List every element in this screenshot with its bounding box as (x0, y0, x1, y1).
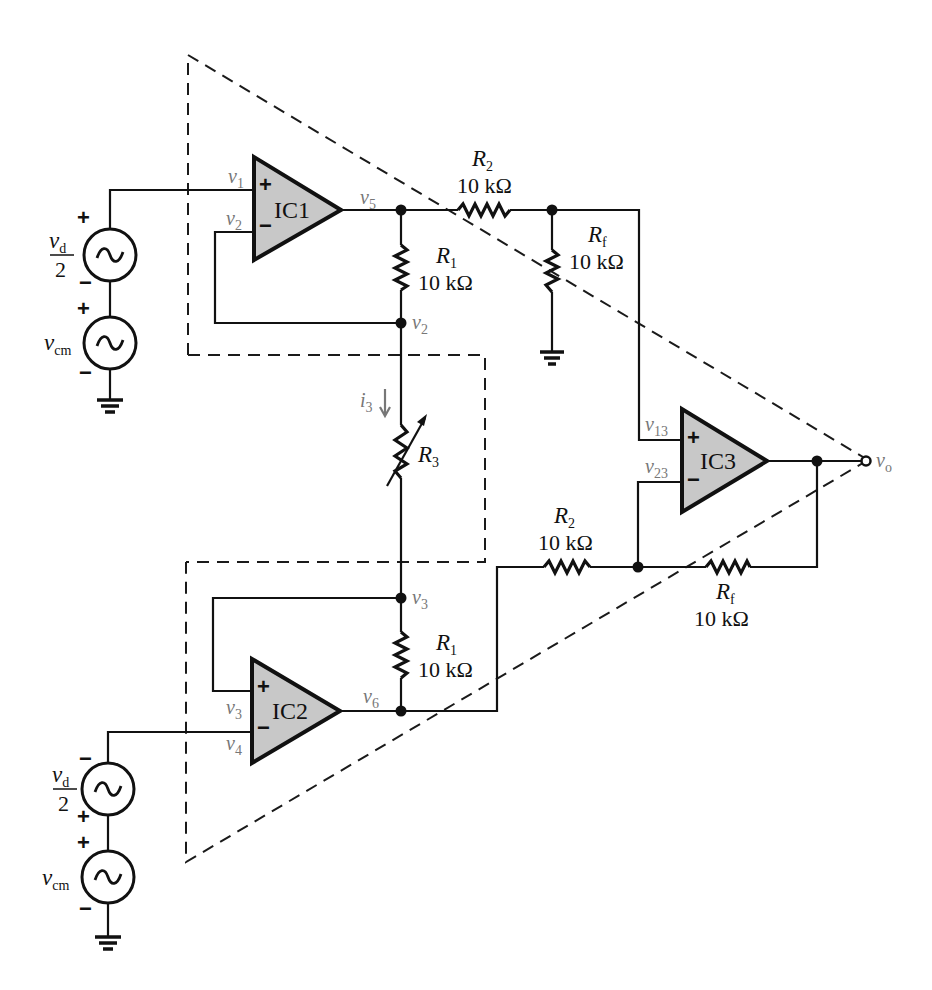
rf-top-value: 10 kΩ (569, 249, 624, 274)
ic3-plus-sign: + (687, 425, 700, 450)
r2-top-name: R2 (471, 146, 493, 174)
source-polarity-signs: + − + − − + + − (77, 205, 92, 921)
r2-top-value: 10 kΩ (457, 173, 512, 198)
vcm-label-bottom: vcm (42, 865, 69, 893)
ic2-minus-sign: − (257, 715, 270, 740)
variable-arrowhead-icon (417, 414, 427, 426)
source-labels: vd 2 vcm vd 2 vcm (42, 228, 77, 893)
resistor-r2-top (458, 204, 510, 216)
ic2-label: IC2 (272, 698, 308, 724)
vd-label-top: vd (49, 228, 66, 256)
node-v6-label: v6 (363, 685, 379, 711)
node-v2-ic1-label: v2 (226, 207, 242, 233)
r1-bottom-name: R1 (435, 630, 457, 658)
node-v13-label: v13 (645, 413, 668, 439)
svg-text:−: − (79, 360, 92, 385)
triangle-boundary-lower (186, 460, 868, 862)
ground-icon (97, 400, 123, 412)
vd-denominator-top: 2 (55, 257, 66, 282)
node-vo-label: vo (876, 449, 892, 475)
ic2-plus-sign: + (257, 674, 270, 699)
resistor-labels: R2 10 kΩ R1 10 kΩ Rf 10 kΩ R3 R1 10 kΩ R… (417, 146, 749, 682)
opamp-ic3: + − IC3 (682, 409, 767, 512)
ic3-minus-sign: − (687, 467, 700, 492)
node-v1-label: v1 (228, 165, 244, 191)
resistor-rf-top (546, 250, 558, 292)
svg-text:−: − (79, 270, 92, 295)
rf-bottom-value: 10 kΩ (694, 606, 749, 631)
ic1-minus-sign: − (259, 213, 272, 238)
ic1-plus-sign: + (259, 172, 272, 197)
vd-denominator-bottom: 2 (58, 791, 69, 816)
ground-icon (95, 937, 121, 949)
resistor-rf-bottom (706, 561, 750, 573)
resistor-r1-top (395, 245, 407, 290)
ground-icon (540, 352, 564, 364)
node-v2-label: v2 (412, 311, 428, 337)
output-terminal-icon (862, 457, 871, 466)
instrumentation-amplifier-schematic: + − IC1 + − IC2 + − IC3 (0, 0, 932, 990)
notch-boundary (186, 355, 485, 562)
rf-bottom-name: Rf (715, 579, 735, 607)
node-v5-label: v5 (360, 186, 376, 212)
node-v3-label: v3 (412, 586, 428, 612)
vd-label-bottom: vd (52, 762, 69, 790)
svg-text:+: + (77, 205, 90, 230)
r3-name: R3 (417, 442, 439, 470)
svg-text:+: + (77, 830, 90, 855)
svg-text:+: + (77, 296, 90, 321)
resistor-r2-bottom (544, 561, 590, 573)
r1-top-name: R1 (435, 243, 457, 271)
r2-bottom-value: 10 kΩ (538, 530, 593, 555)
node-v4-label: v4 (226, 732, 242, 758)
r1-bottom-value: 10 kΩ (418, 657, 473, 682)
svg-text:−: − (79, 746, 92, 771)
vcm-label-top: vcm (44, 330, 71, 358)
triangle-boundary-upper (188, 55, 868, 460)
r1-top-value: 10 kΩ (418, 270, 473, 295)
ic3-label: IC3 (700, 448, 736, 474)
opamp-ic2: + − IC2 (252, 659, 340, 763)
node-v23-label: v23 (645, 455, 668, 481)
ic1-label: IC1 (274, 197, 310, 223)
current-i3: i3 (360, 389, 390, 416)
i3-label: i3 (360, 389, 373, 415)
ground-symbols (95, 352, 564, 949)
opamp-ic1: + − IC1 (254, 157, 341, 260)
r2-bottom-name: R2 (553, 503, 575, 531)
resistor-r1-bottom (395, 632, 407, 678)
svg-text:−: − (79, 896, 92, 921)
svg-text:+: + (77, 804, 90, 829)
rf-top-name: Rf (587, 222, 607, 250)
node-v3-ic2-label: v3 (226, 696, 242, 722)
